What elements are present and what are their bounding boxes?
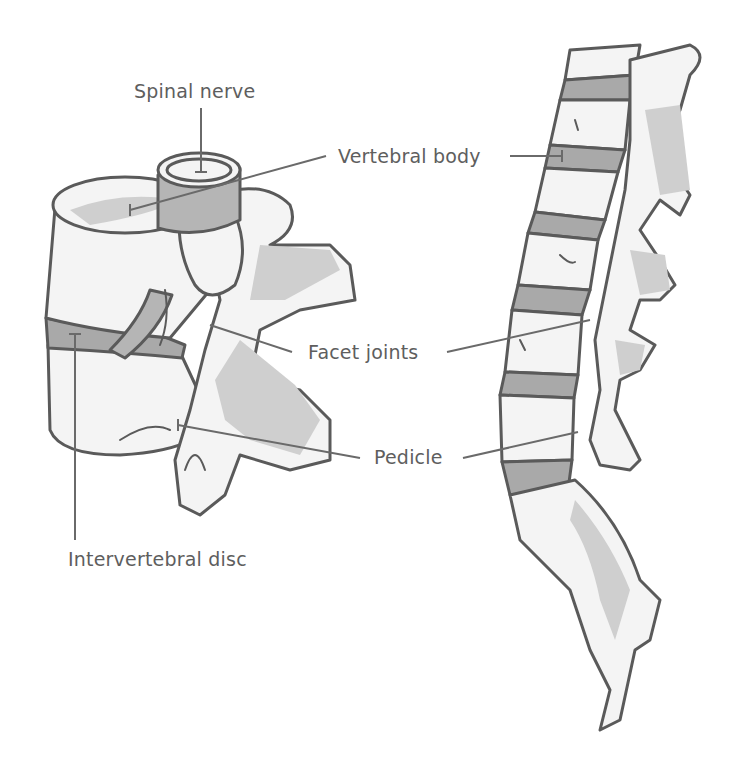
spine-diagram: Spinal nerve Vertebral body Facet joints… bbox=[0, 0, 749, 766]
label-facet-joints: Facet joints bbox=[308, 341, 418, 363]
label-pedicle: Pedicle bbox=[374, 446, 443, 468]
diagram-artwork bbox=[0, 0, 749, 766]
vertebra-closeup-illustration bbox=[46, 153, 355, 515]
label-vertebral-body: Vertebral body bbox=[338, 145, 481, 167]
label-spinal-nerve: Spinal nerve bbox=[134, 80, 255, 102]
label-intervertebral-disc: Intervertebral disc bbox=[68, 548, 247, 570]
lumbar-spine-illustration bbox=[500, 45, 700, 730]
